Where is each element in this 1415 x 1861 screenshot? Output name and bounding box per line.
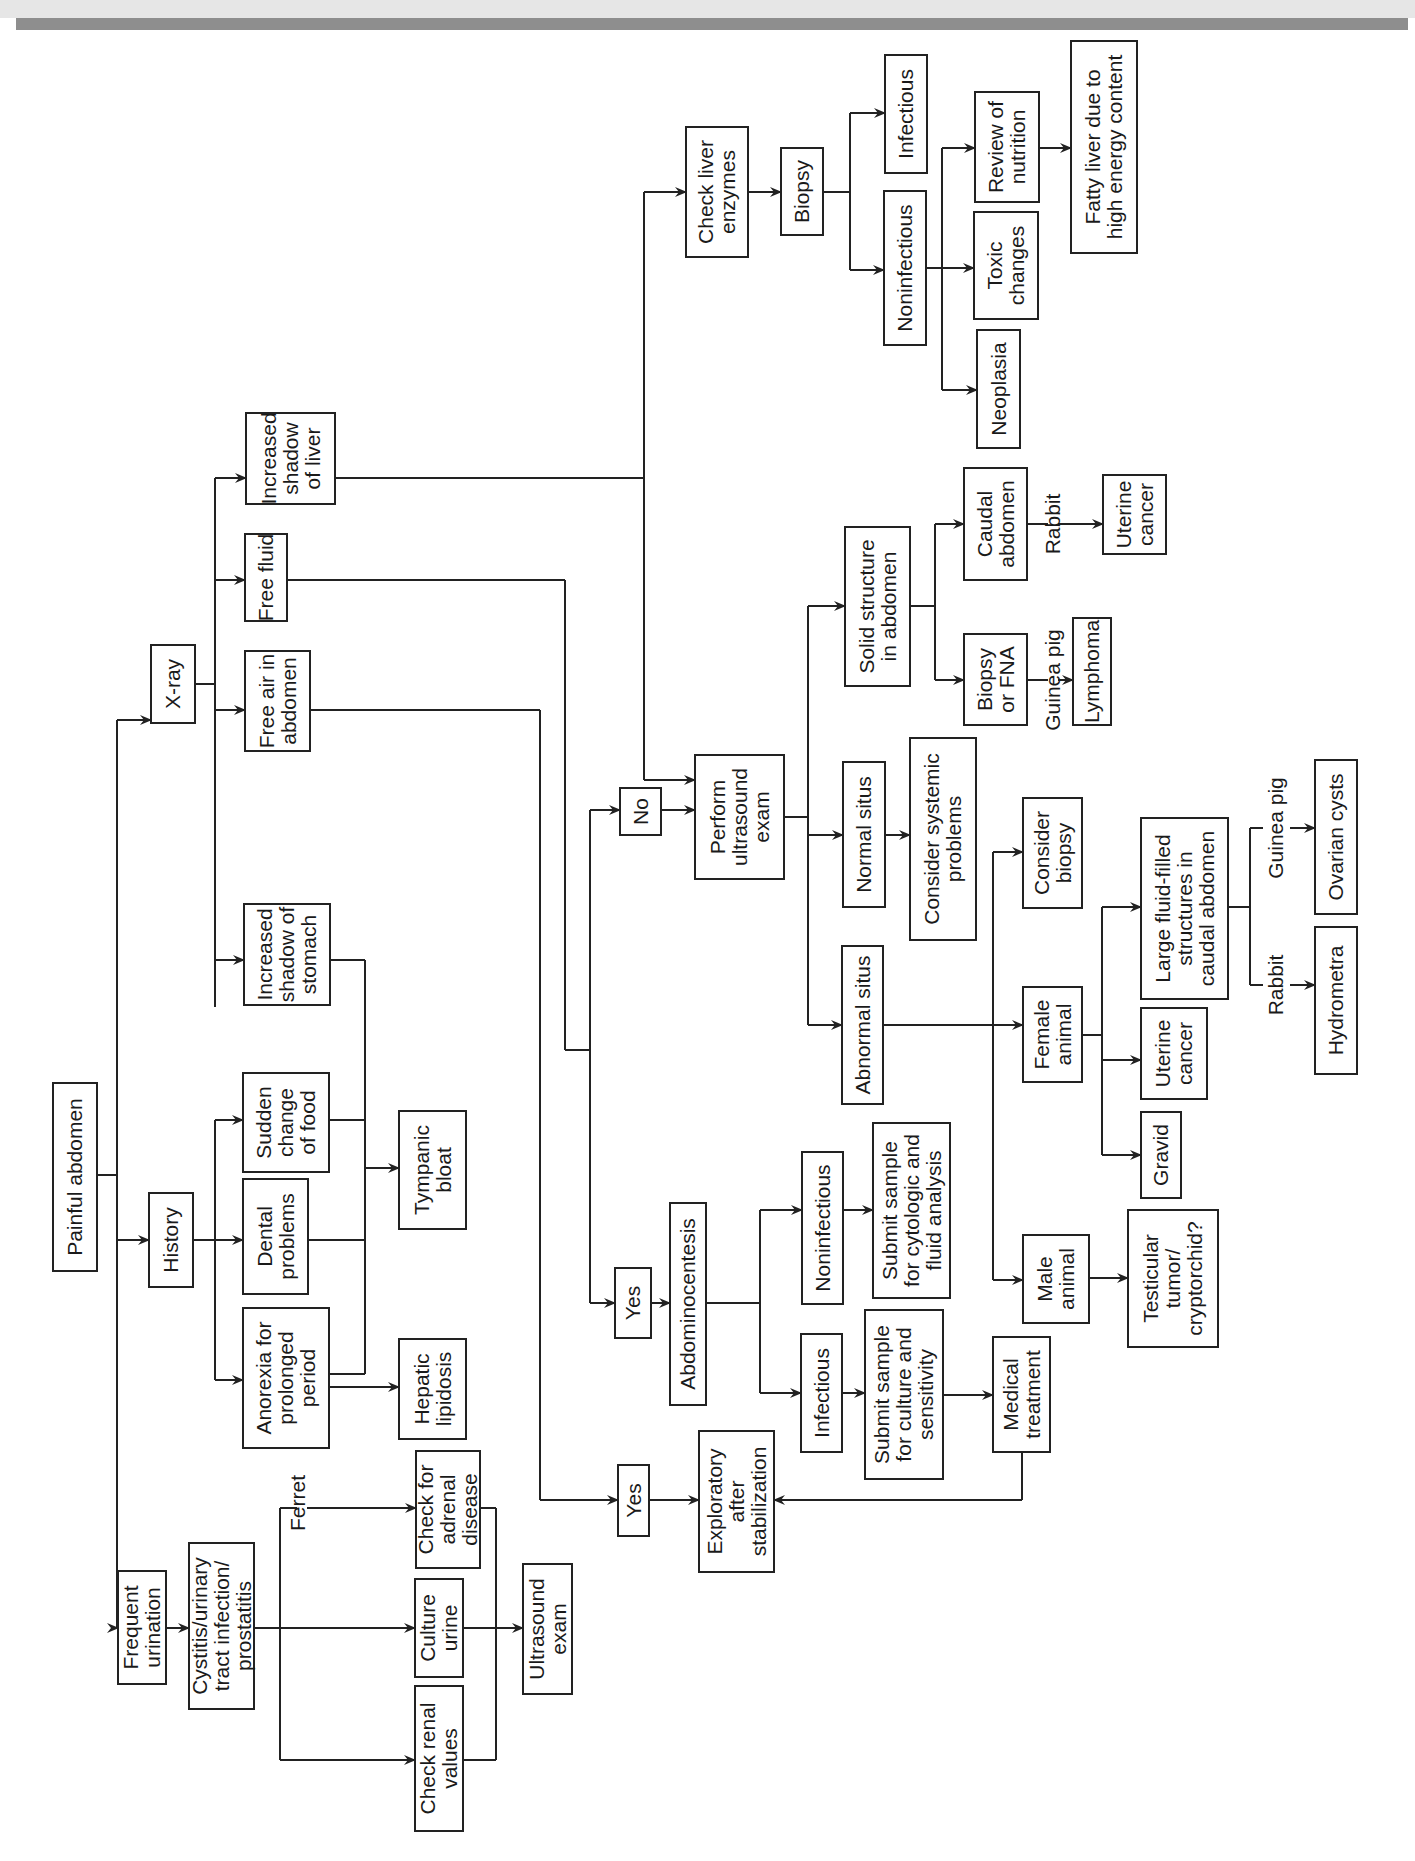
node-label: Submit samplefor cytologic andfluid anal…	[878, 1134, 945, 1287]
node-label: Abnormal situs	[851, 956, 874, 1095]
node-solid-structure: Solid structurein abdomen	[845, 527, 910, 686]
node-label: Frequenturination	[119, 1585, 164, 1669]
node-submit-cytologic: Submit samplefor cytologic andfluid anal…	[873, 1123, 950, 1298]
node-consider-systemic: Consider systemicproblems	[910, 738, 976, 940]
node-cystitis: Cystitis/urinarytract infection/prostati…	[188, 1543, 255, 1709]
node-label: Caudalabdomen	[973, 480, 1018, 568]
node-xray: X-ray	[151, 645, 195, 723]
node-review-nutrition: Review ofnutrition	[975, 92, 1039, 202]
node-normal-situs: Normal situs	[843, 762, 885, 907]
node-tympanic-bloat: Tympanicbloat	[399, 1111, 466, 1229]
node-label: Large fluid-filledstructures incaudal ab…	[1151, 831, 1218, 986]
node-label: Infectious	[810, 1348, 833, 1438]
node-medical-treatment: Medicaltreatment	[993, 1337, 1050, 1452]
node-label: Ovarian cysts	[1324, 773, 1347, 900]
node-check-adrenal: Check foradrenaldisease	[414, 1451, 481, 1568]
node-abdominocentesis: Abdominocentesis	[670, 1203, 706, 1405]
node-infectious-liver: Infectious	[885, 55, 927, 173]
node-lymphoma: Lymphoma	[1073, 618, 1111, 725]
node-perform-ultrasound: Performultrasoundexam	[695, 755, 784, 879]
node-free-fluid: Free fluid	[245, 534, 287, 622]
node-label: Dentalproblems	[253, 1193, 298, 1279]
node-inc-shadow-stomach: Increasedshadow ofstomach	[244, 904, 330, 1005]
node-history: History	[149, 1193, 193, 1287]
node-label: Lymphoma	[1080, 620, 1103, 723]
edge-label-rabbit-uterine: Rabbit	[1041, 493, 1064, 554]
node-inc-shadow-liver: Increasedshadowof liver	[246, 412, 335, 504]
node-label: Considerbiopsy	[1030, 811, 1075, 895]
node-noninfectious-liver: Noninfectious	[884, 191, 926, 345]
node-culture-urine: Cultureurine	[415, 1579, 463, 1677]
node-biopsy-fna: Biopsyor FNA	[964, 634, 1027, 725]
edge-label-guinea-pig-ovarian: Guinea pig	[1264, 777, 1287, 879]
node-label: History	[159, 1207, 182, 1273]
edge-label-ferret: Ferret	[286, 1475, 309, 1531]
node-label: Check liverenzymes	[694, 140, 739, 244]
node-neoplasia: Neoplasia	[977, 330, 1020, 448]
node-label: Yes	[621, 1286, 644, 1320]
node-anorexia: Anorexia forprolongedperiod	[243, 1308, 329, 1448]
node-female-animal: Femaleanimal	[1023, 987, 1082, 1082]
node-label: Femaleanimal	[1030, 999, 1075, 1069]
node-label: Solid structurein abdomen	[855, 539, 900, 673]
node-ultrasound-exam: Ultrasoundexam	[523, 1564, 572, 1694]
node-label: Noninfectious	[893, 204, 916, 331]
edge-label-rabbit-hydrometra: Rabbit	[1264, 954, 1287, 1015]
node-label: Free fluid	[254, 534, 277, 622]
node-caudal-abdomen: Caudalabdomen	[964, 468, 1027, 580]
node-label: X-ray	[161, 658, 184, 709]
node-gravid: Gravid	[1141, 1112, 1181, 1198]
node-label: Painful abdomen	[63, 1098, 86, 1256]
node-male-animal: Maleanimal	[1023, 1235, 1089, 1323]
node-label: Hepaticlipidosis	[410, 1352, 455, 1427]
node-label: Biopsy	[790, 159, 813, 223]
node-hydrometra: Hydrometra	[1315, 927, 1357, 1074]
node-label: Increasedshadow ofstomach	[253, 906, 320, 1002]
node-painful-abdomen: Painful abdomen	[53, 1083, 97, 1271]
node-noninfectious-fluid: Noninfectious	[802, 1152, 843, 1304]
node-label: Free air inabdomen	[255, 654, 300, 749]
node-label: Normal situs	[852, 776, 875, 893]
node-label: Check foradrenaldisease	[414, 1465, 481, 1555]
node-label: Yes	[622, 1483, 645, 1517]
node-label: Suddenchangeof food	[252, 1086, 319, 1158]
node-hepatic-lipidosis: Hepaticlipidosis	[399, 1339, 466, 1439]
node-label: Fatty liver due tohigh energy content	[1081, 55, 1126, 240]
node-label: Neoplasia	[987, 342, 1010, 436]
node-label: Medicaltreatment	[999, 1350, 1044, 1439]
node-consider-biopsy: Considerbiopsy	[1023, 798, 1082, 908]
node-yes-fluid: Yes	[615, 1268, 651, 1338]
node-yes-air: Yes	[618, 1465, 649, 1536]
node-submit-culture: Submit samplefor culture andsensitivity	[865, 1310, 943, 1479]
node-sudden-change: Suddenchangeof food	[243, 1073, 329, 1172]
node-label: Uterinecancer	[1151, 1020, 1196, 1088]
node-label: Uterinecancer	[1112, 481, 1157, 549]
node-label: Hydrometra	[1324, 945, 1347, 1055]
flowchart: Painful abdomenFrequenturinationHistoryX…	[0, 0, 1415, 1861]
node-uterine-cancer-female: Uterinecancer	[1141, 1008, 1207, 1099]
node-check-liver-enzymes: Check liverenzymes	[686, 127, 748, 257]
node-large-fluid: Large fluid-filledstructures incaudal ab…	[1141, 818, 1228, 999]
node-exploratory: Exploratoryafterstabilization	[699, 1431, 774, 1572]
node-label: Maleanimal	[1033, 1248, 1078, 1310]
nodes: Painful abdomenFrequenturinationHistoryX…	[53, 41, 1357, 1831]
node-label: Gravid	[1149, 1124, 1172, 1186]
node-frequent-urination: Frequenturination	[118, 1571, 166, 1684]
node-fatty-liver: Fatty liver due tohigh energy content	[1071, 41, 1137, 253]
node-infectious-fluid: Infectious	[801, 1334, 842, 1452]
node-ovarian-cysts: Ovarian cysts	[1315, 760, 1357, 914]
node-no-fluid: No	[620, 788, 661, 835]
node-label: No	[629, 798, 652, 825]
edge-label-guinea-pig-lymphoma: Guinea pig	[1041, 629, 1064, 731]
node-label: Infectious	[894, 69, 917, 159]
node-testicular: Testiculartumor/cryptorchid?	[1128, 1210, 1218, 1347]
node-label: Review ofnutrition	[984, 101, 1029, 193]
node-biopsy-liver: Biopsy	[781, 148, 823, 235]
node-dental: Dentalproblems	[243, 1179, 308, 1294]
node-free-air: Free air inabdomen	[245, 651, 310, 751]
node-toxic-changes: Toxicchanges	[974, 212, 1038, 319]
node-check-renal: Check renalvalues	[415, 1686, 463, 1831]
node-uterine-cancer-rabbit: Uterinecancer	[1103, 475, 1166, 554]
node-abnormal-situs: Abnormal situs	[842, 946, 883, 1104]
node-label: Noninfectious	[811, 1164, 834, 1291]
